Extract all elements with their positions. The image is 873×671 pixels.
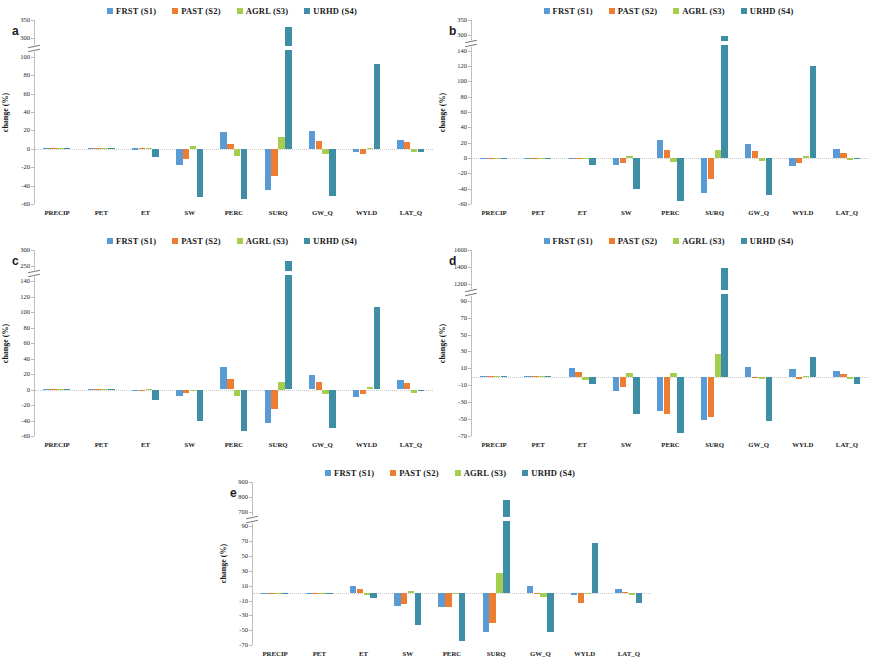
bar-group-et [132,250,159,436]
bar-frst [745,144,751,158]
bar-frst [613,158,619,165]
x-axis-label-lat_q: LAT_Q [825,209,869,216]
bar-past [271,149,277,177]
axis-break-marker [465,289,477,296]
bar-agrl [759,158,765,161]
bar-past [139,390,145,391]
bar-urhd [326,593,332,594]
axis-break-gap [657,41,684,45]
bar-frst [657,140,663,158]
legend-item-urhd[interactable]: URHD (S4) [304,236,357,246]
x-axis-label-surq: SURQ [693,209,737,216]
legend-item-past[interactable]: PAST (S2) [609,6,658,16]
bar-urhd [854,377,860,385]
x-axis-label-perc: PERC [212,209,256,216]
chart-legend: FRST (S1)PAST (S2)AGRL (S3)URHD (S4) [57,4,407,18]
bar-past [531,376,537,377]
x-axis-label-lat_q: LAT_Q [825,441,869,448]
legend-item-past[interactable]: PAST (S2) [609,236,658,246]
x-axis-label-surq: SURQ [474,650,518,657]
x-axis-label-sw: SW [386,650,430,657]
axis-break-gap [571,517,598,521]
legend-item-agrl[interactable]: AGRL (S3) [455,468,507,478]
panel-e: FRST (S1)PAST (S2)AGRL (S3)URHD (S4)echa… [218,462,655,671]
axis-break-gap [397,46,424,50]
bar-agrl [538,376,544,377]
bar-urhd [374,307,380,389]
bar-group-perc [657,20,684,204]
x-axis-label-sw: SW [604,209,648,216]
legend-label: FRST (S1) [553,6,593,16]
bar-group-surq [265,250,292,436]
bar-agrl [275,593,281,594]
x-axis-label-gw_q: GW_Q [737,441,781,448]
bar-frst [309,375,315,390]
legend-item-frst[interactable]: FRST (S1) [325,468,374,478]
legend-item-past[interactable]: PAST (S2) [390,468,439,478]
bar-past [316,382,322,390]
bar-agrl [494,158,500,159]
x-axis-label-gw_q: GW_Q [737,209,781,216]
bar-past [94,389,100,390]
legend-swatch-agrl-icon [237,8,243,14]
legend-label: PAST (S2) [618,6,658,16]
legend-item-urhd[interactable]: URHD (S4) [741,6,794,16]
bar-past [139,148,145,149]
legend-item-urhd[interactable]: URHD (S4) [304,6,357,16]
bar-past [622,592,628,593]
legend-swatch-urhd-icon [304,238,310,244]
bar-frst [524,158,530,159]
y-axis-tick-label: -70 [458,433,467,440]
legend-item-urhd[interactable]: URHD (S4) [741,236,794,246]
bar-urhd [415,593,421,625]
bar-group-wyld [353,250,380,436]
bar-past [708,158,714,179]
bar-frst [397,380,403,389]
legend-item-agrl[interactable]: AGRL (S3) [673,6,725,16]
x-axis-label-surq: SURQ [256,441,300,448]
legend-swatch-frst-icon [107,8,113,14]
axis-break-gap [527,517,554,521]
legend-item-past[interactable]: PAST (S2) [172,6,221,16]
legend-swatch-agrl-icon [673,8,679,14]
bar-frst [397,140,403,149]
bar-urhd [459,593,465,641]
bar-agrl [496,573,502,593]
x-axis-label-gw_q: GW_Q [518,650,562,657]
bar-past [183,390,189,394]
bar-agrl [278,137,284,149]
x-axis-label-perc: PERC [212,441,256,448]
axis-break-gap [745,41,772,45]
legend-item-frst[interactable]: FRST (S1) [544,236,593,246]
bar-agrl [626,156,632,158]
bar-group-precip [480,20,507,204]
legend-swatch-agrl-icon [455,470,461,476]
bar-urhd [108,148,114,149]
bar-urhd [592,543,598,593]
axis-break-gap [483,517,510,521]
axis-break-gap [176,271,203,275]
legend-item-agrl[interactable]: AGRL (S3) [237,6,289,16]
bar-frst [613,377,619,391]
legend-item-past[interactable]: PAST (S2) [172,236,221,246]
bar-frst [43,148,49,149]
bar-urhd [501,376,507,377]
y-axis-tick-mark [468,204,471,205]
y-axis-tick-label: -60 [458,201,467,208]
x-axis-label-precip: PRECIP [253,650,297,657]
legend-item-agrl[interactable]: AGRL (S3) [237,236,289,246]
legend-swatch-urhd-icon [741,238,747,244]
chart-legend: FRST (S1)PAST (S2)AGRL (S3)URHD (S4) [494,4,843,18]
bar-past [796,158,802,163]
bar-frst [350,586,356,593]
legend-item-agrl[interactable]: AGRL (S3) [673,236,725,246]
legend-item-frst[interactable]: FRST (S1) [544,6,593,16]
axis-break-marker [28,45,40,52]
x-axis-labels: PRECIPPETETSWPERCSURQGW_QWYLDLAT_Q [35,209,433,216]
bar-past [664,150,670,158]
bar-agrl [322,149,328,155]
legend-item-frst[interactable]: FRST (S1) [107,236,156,246]
legend-item-frst[interactable]: FRST (S1) [107,6,156,16]
legend-item-urhd[interactable]: URHD (S4) [522,468,575,478]
bar-frst [571,593,577,594]
